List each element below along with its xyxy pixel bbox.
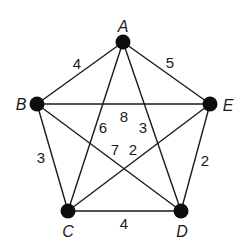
edges-group — [37, 42, 210, 211]
node-label-c: C — [62, 223, 74, 240]
edge-weight-a-d: 3 — [139, 119, 147, 136]
node-label-a: A — [117, 18, 129, 35]
edge-weight-a-e: 5 — [166, 54, 174, 71]
weighted-graph-diagram: 4586337224ABECD — [0, 0, 246, 248]
edge-weight-a-c: 6 — [99, 119, 107, 136]
node-a — [116, 35, 131, 50]
node-d — [174, 204, 189, 219]
nodes-group — [30, 35, 218, 219]
edge-weight-b-d: 7 — [111, 141, 119, 158]
edge-weight-a-b: 4 — [73, 55, 81, 72]
edge-weight-b-c: 3 — [37, 149, 45, 166]
edge-b-d — [37, 104, 181, 211]
node-c — [61, 204, 76, 219]
node-label-d: D — [176, 223, 188, 240]
edge-weight-c-e: 2 — [129, 141, 137, 158]
edge-weight-b-e: 8 — [120, 108, 128, 125]
node-e — [203, 97, 218, 112]
node-label-b: B — [16, 96, 27, 113]
edge-weight-c-d: 4 — [120, 215, 128, 232]
edge-weight-e-d: 2 — [201, 152, 209, 169]
node-b — [30, 97, 45, 112]
edge-a-e — [123, 42, 210, 104]
node-label-e: E — [223, 97, 234, 114]
edge-a-b — [37, 42, 123, 104]
labels-group: 4586337224ABECD — [16, 18, 234, 240]
